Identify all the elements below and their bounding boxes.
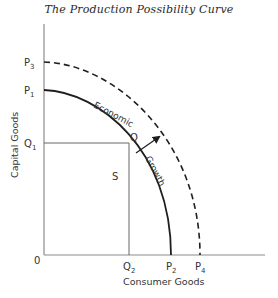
label-origin: 0: [34, 255, 40, 266]
ppc-expanded-curve: [44, 62, 200, 255]
y-axis-title: Capital Goods: [9, 112, 20, 178]
label-q2: Q2: [123, 261, 135, 275]
label-p3: P3: [24, 57, 35, 71]
label-p2: P2: [166, 261, 177, 275]
growth-arrow-icon: [136, 137, 159, 153]
label-economic: Economic: [92, 100, 135, 129]
label-s-point: S: [112, 171, 118, 182]
label-p4: P4: [195, 261, 206, 275]
ppc-diagram: P3 P1 Q1 0 Q2 P2 P4 Consumer Goods Capit…: [0, 0, 278, 298]
label-q1: Q1: [24, 138, 36, 152]
label-growth: Growth: [143, 154, 167, 187]
label-q-point: Q: [130, 132, 138, 143]
x-axis-title: Consumer Goods: [123, 276, 204, 287]
label-p1: P1: [24, 85, 35, 99]
